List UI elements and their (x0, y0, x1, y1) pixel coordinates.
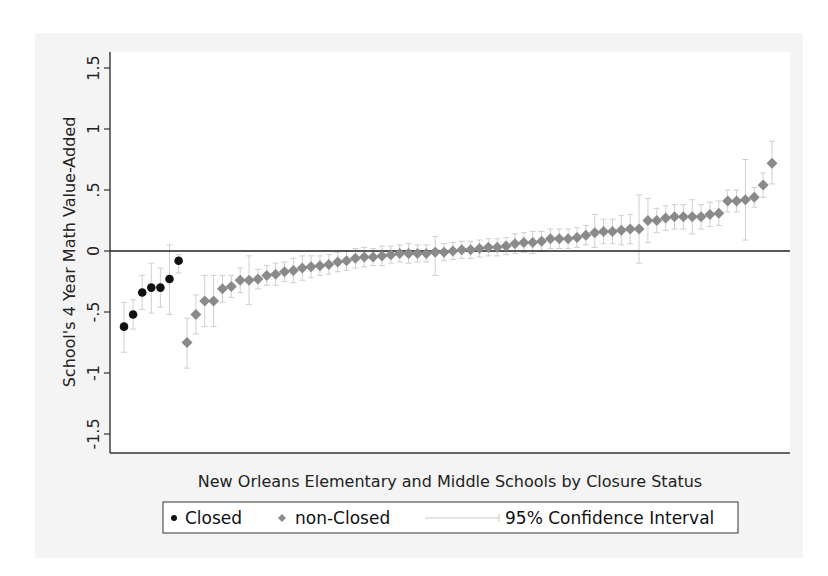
legend-nonclosed-label: non-Closed (295, 508, 390, 528)
closed-school-point (120, 322, 129, 331)
closed-school-point (156, 283, 165, 292)
scatter-chart: -1.5-1-.50.511.5 School's 4 Year Math Va… (0, 0, 828, 576)
y-tick-label: -.5 (84, 301, 103, 322)
closed-school-point (129, 310, 138, 319)
x-axis-title: New Orleans Elementary and Middle School… (198, 472, 702, 491)
y-tick-label: .5 (84, 182, 103, 197)
closed-school-point (147, 283, 156, 292)
closed-circle-icon (171, 515, 177, 521)
y-tick-label: -1 (84, 365, 103, 381)
y-axis-ticks: -1.5-1-.50.511.5 (84, 55, 110, 449)
y-tick-label: 1 (84, 124, 103, 134)
closed-school-point (165, 275, 174, 284)
closed-school-point (174, 256, 183, 265)
legend-ci-label: 95% Confidence Interval (505, 508, 714, 528)
y-tick-label: 1.5 (84, 55, 103, 80)
legend: Closed non-Closed 95% Confidence Interva… (163, 502, 738, 533)
y-tick-label: -1.5 (84, 418, 103, 449)
y-tick-label: 0 (84, 246, 103, 256)
legend-closed-label: Closed (185, 508, 242, 528)
closed-school-point (138, 288, 147, 297)
y-axis-title: School's 4 Year Math Value-Added (60, 117, 79, 388)
